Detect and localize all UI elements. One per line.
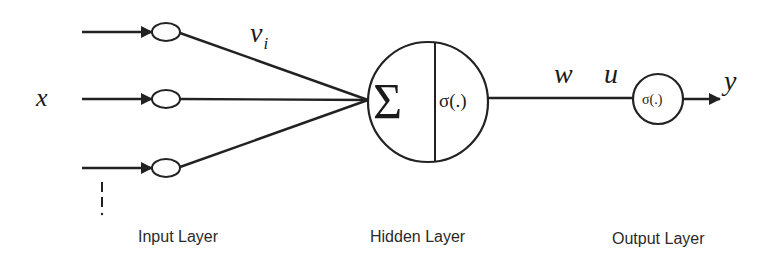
output-layer-label: Output Layer [612, 230, 705, 247]
hidden-layer-label: Hidden Layer [370, 228, 466, 245]
weight-connection-3 [180, 100, 368, 167]
net-label-u: u [604, 58, 618, 89]
weight-label-w: w [554, 58, 573, 89]
input-node-2 [152, 90, 180, 108]
summation-icon: Σ [373, 73, 402, 129]
output-symbol-y: y [721, 65, 737, 96]
weight-connection-2 [180, 99, 368, 100]
weight-label-v: vi [250, 17, 268, 53]
input-layer-label: Input Layer [138, 228, 219, 245]
hidden-output-connection: w u [488, 58, 633, 98]
neural-network-diagram: x vi Input Layer Σ σ(.) Hidden Layer [0, 0, 779, 264]
weight-connection-1 [180, 33, 368, 100]
output-activation-label: σ(.) [642, 92, 663, 108]
output-layer: σ(.) y Output Layer [612, 65, 737, 247]
hidden-layer: Σ σ(.) Hidden Layer [368, 42, 488, 245]
input-node-1 [152, 23, 180, 41]
hidden-activation-label: σ(.) [439, 90, 467, 112]
input-symbol-x: x [35, 83, 48, 112]
continuation-ellipsis-icon [101, 182, 103, 215]
input-node-3 [152, 159, 180, 177]
input-layer: x vi Input Layer [35, 17, 368, 245]
